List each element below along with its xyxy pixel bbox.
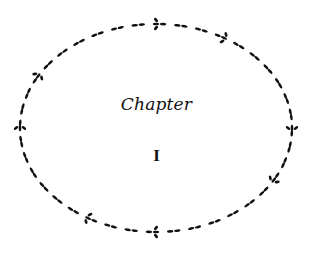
oval-wreath-ornament: [0, 0, 313, 267]
chapter-number: I: [0, 146, 313, 166]
chapter-heading: Chapter: [0, 94, 313, 114]
